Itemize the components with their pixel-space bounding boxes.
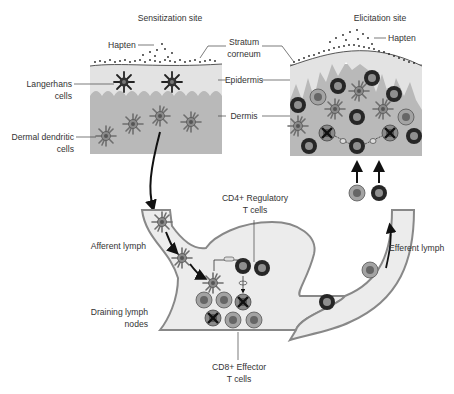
dermis-label: Dermis — [222, 111, 266, 121]
draining-lymph-nodes-label-1: Draining lymph — [60, 307, 148, 317]
hapten-label-left: Hapten — [108, 40, 136, 50]
efferent-lymph-label: Efferent lymph — [389, 243, 444, 253]
cd4-regulatory-label-1: CD4+ Regulatory — [212, 193, 298, 203]
langerhans-cells-label-2: cells — [0, 91, 72, 101]
cd4-regulatory-label-2: T cells — [212, 205, 298, 215]
stratum-corneum-label-2: corneum — [222, 49, 266, 59]
draining-lymph-nodes-label-2: nodes — [60, 319, 148, 329]
dermal-dendritic-cells-label-2: cells — [0, 144, 74, 154]
afferent-lymph-label: Afferent lymph — [60, 241, 146, 251]
stratum-corneum-label-1: Stratum — [222, 37, 266, 47]
hapten-label-right: Hapten — [388, 33, 416, 43]
sensitization-skin — [90, 43, 222, 154]
elicitation-skin — [288, 29, 422, 156]
dermal-dendritic-cells-label-1: Dermal dendritic — [0, 132, 74, 142]
sensitization-site-title: Sensitization site — [120, 13, 220, 23]
epidermis-label: Epidermis — [222, 75, 266, 85]
elicitation-site-title: Elicitation site — [330, 13, 430, 23]
langerhans-cells-label-1: Langerhans — [0, 79, 72, 89]
cd8-effector-label-1: CD8+ Effector — [196, 362, 282, 372]
cd8-effector-label-2: T cells — [196, 374, 282, 384]
